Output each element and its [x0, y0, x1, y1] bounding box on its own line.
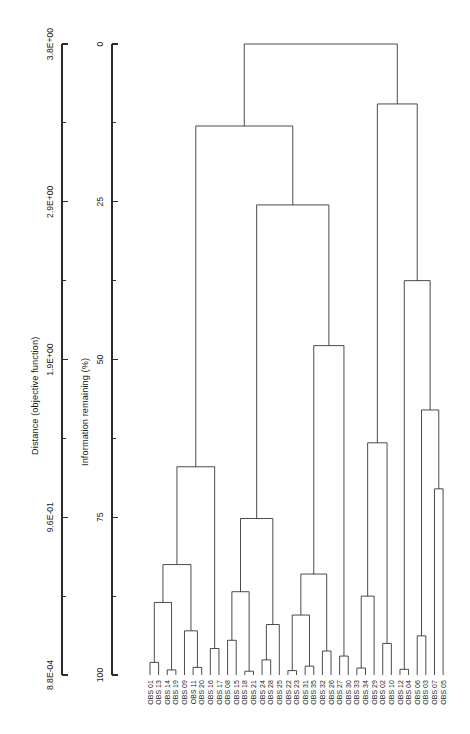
leaf-label: OBS 21: [250, 680, 257, 705]
leaf-label: OBS 23: [293, 680, 300, 705]
leaf-label: OBS 15: [233, 680, 240, 705]
leaf-label: OBS 27: [336, 680, 343, 705]
information-axis: 0255075100: [95, 41, 117, 682]
dendrogram-branch: [305, 666, 314, 675]
dendrogram-branch: [400, 669, 409, 675]
leaf-label: OBS 12: [397, 680, 404, 705]
information-axis-tick-label: 0: [95, 41, 105, 46]
leaf-label: OBS 06: [414, 680, 421, 705]
dendrogram-branch: [266, 625, 279, 675]
dendrogram-branch: [417, 636, 426, 675]
dendrogram-branch: [383, 643, 392, 675]
information-axis-tick-label: 75: [95, 512, 105, 522]
leaf-label: OBS 07: [431, 680, 438, 705]
dendrogram-branch: [357, 668, 366, 675]
information-axis-tick-label: 25: [95, 197, 105, 207]
dendrogram-branch: [196, 126, 293, 467]
distance-axis: 3.8E+002.9E+001.9E+009.6E-018.8E-04: [45, 28, 67, 690]
leaf-label: OBS 26: [328, 680, 335, 705]
leaf-label: OBS 17: [216, 680, 223, 705]
dendrogram-branch: [314, 346, 344, 656]
dendrogram-branch: [245, 671, 254, 675]
leaf-label: OBS 33: [353, 680, 360, 705]
leaf-label: OBS 03: [422, 680, 429, 705]
dendrogram-branch: [167, 670, 176, 675]
dendrogram-branch: [193, 667, 202, 675]
dendrogram-branch: [177, 467, 215, 649]
dendrogram-figure: 3.8E+002.9E+001.9E+009.6E-018.8E-04 Dist…: [0, 0, 470, 734]
distance-axis-title: Distance (objective function): [30, 337, 40, 455]
dendrogram-tree: [150, 44, 443, 675]
leaf-label: OBS 18: [241, 680, 248, 705]
dendrogram-branch: [257, 205, 329, 519]
dendrogram-branch: [262, 660, 271, 675]
leaf-label: OBS 28: [267, 680, 274, 705]
leaf-label: OBS 29: [371, 680, 378, 705]
information-axis-tick-label: 50: [95, 355, 105, 365]
leaf-label: OBS 11: [190, 680, 197, 704]
leaf-label: OBS 05: [440, 680, 447, 705]
information-axis-title: Information remaining (%): [80, 358, 90, 466]
dendrogram-branch: [404, 281, 430, 670]
dendrogram-branch: [244, 44, 397, 126]
leaf-label: OBS 02: [379, 680, 386, 705]
dendrogram-branch: [434, 489, 443, 675]
leaf-label: OBS 31: [302, 680, 309, 705]
distance-axis-tick-label: 1.9E+00: [45, 343, 55, 375]
distance-axis-tick-label: 3.8E+00: [45, 28, 55, 60]
leaf-label: OBS 24: [259, 680, 266, 705]
leaf-label: OBS 22: [285, 680, 292, 705]
dendrogram-branch: [184, 631, 197, 675]
dendrogram-branch: [154, 602, 171, 670]
leaf-label: OBS 14: [164, 680, 171, 705]
leaf-label: OBS 25: [276, 680, 283, 705]
leaf-label: OBS 19: [172, 680, 179, 705]
leaf-label: OBS 10: [388, 680, 395, 705]
dendrogram-branch: [361, 596, 374, 675]
dendrogram-branch: [377, 104, 417, 443]
leaf-label: OBS 01: [147, 680, 154, 705]
leaf-label: OBS 16: [207, 680, 214, 705]
leaf-label: OBS 04: [405, 680, 412, 705]
dendrogram-canvas: 3.8E+002.9E+001.9E+009.6E-018.8E-04 Dist…: [0, 0, 470, 734]
dendrogram-branch: [210, 649, 219, 676]
dendrogram-branch: [422, 410, 439, 636]
leaf-label: OBS 35: [310, 680, 317, 705]
leaf-label: OBS 09: [181, 680, 188, 705]
leaf-label: OBS 08: [224, 680, 231, 705]
distance-axis-tick-label: 2.9E+00: [45, 185, 55, 217]
dendrogram-branch: [232, 592, 249, 672]
dendrogram-branch: [368, 443, 387, 644]
dendrogram-branch: [288, 671, 297, 675]
leaf-label-group: OBS 01OBS 13OBS 14OBS 19OBS 09OBS 11OBS …: [147, 680, 447, 705]
leaf-label: OBS 32: [319, 680, 326, 705]
dendrogram-branch: [340, 656, 349, 675]
information-axis-tick-label: 100: [95, 668, 105, 683]
dendrogram-branch: [322, 651, 331, 675]
distance-axis-tick-label: 8.8E-04: [45, 660, 55, 690]
dendrogram-branch: [241, 519, 273, 625]
dendrogram-branch: [301, 574, 327, 651]
leaf-label: OBS 34: [362, 680, 369, 705]
dendrogram-branch: [163, 565, 191, 631]
dendrogram-branch: [228, 640, 237, 675]
dendrogram-branch: [292, 615, 309, 671]
dendrogram-branch: [150, 662, 159, 675]
distance-axis-tick-label: 9.6E-01: [45, 502, 55, 532]
leaf-label: OBS 30: [345, 680, 352, 705]
leaf-label: OBS 20: [198, 680, 205, 705]
leaf-label: OBS 13: [155, 680, 162, 705]
